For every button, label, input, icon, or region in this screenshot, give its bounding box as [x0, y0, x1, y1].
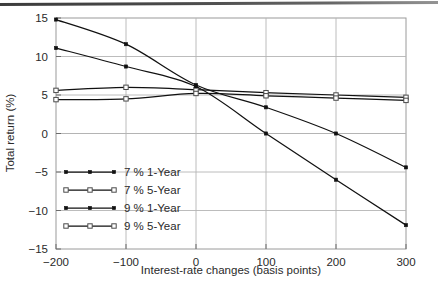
legend-marker	[64, 206, 67, 209]
series-marker	[334, 132, 337, 135]
legend-marker	[88, 170, 91, 173]
y-tick-label: 0	[42, 128, 48, 140]
series-marker	[404, 98, 408, 102]
series-marker	[54, 46, 57, 49]
series-marker	[194, 85, 197, 88]
legend-marker	[88, 224, 92, 228]
series-marker	[334, 178, 337, 181]
x-tick-label: 200	[326, 256, 345, 268]
y-tick-label: −10	[28, 205, 48, 217]
series-marker	[404, 224, 407, 227]
legend-label: 9 % 1-Year	[124, 202, 181, 214]
y-axis-ticks	[56, 18, 61, 249]
series-marker	[334, 96, 338, 100]
y-axis-tick-labels: 151050−5−10−15	[28, 12, 48, 255]
series-marker	[124, 97, 128, 101]
series-marker	[264, 94, 268, 98]
series-1	[54, 18, 407, 169]
legend-marker	[64, 188, 68, 192]
x-axis-title: Interest-rate changes (basis points)	[141, 264, 321, 276]
series-marker	[54, 97, 58, 101]
series-line	[56, 87, 406, 97]
series-3	[54, 46, 407, 226]
legend-marker	[64, 224, 68, 228]
series-marker	[124, 43, 127, 46]
series-marker	[54, 18, 57, 21]
legend-label: 7 % 5-Year	[124, 184, 181, 196]
chart-legend: 7 % 1-Year7 % 5-Year9 % 1-Year9 % 5-Year	[64, 166, 181, 232]
legend-marker	[112, 170, 115, 173]
y-tick-label: 5	[42, 89, 48, 101]
data-series-layer	[54, 18, 408, 227]
y-axis-title: Total return (%)	[4, 94, 16, 173]
legend-item: 9 % 1-Year	[64, 202, 180, 214]
legend-label: 9 % 5-Year	[124, 220, 181, 232]
x-axis-ticks	[56, 244, 406, 249]
series-marker	[264, 106, 267, 109]
y-tick-label: 15	[35, 12, 48, 24]
series-marker	[264, 132, 267, 135]
legend-marker	[88, 188, 92, 192]
series-line	[56, 48, 406, 225]
series-marker	[124, 85, 128, 89]
chart-figure: 151050−5−10−15 −200−1000100200300 Intere…	[0, 0, 438, 281]
series-marker	[124, 65, 127, 68]
gridlines	[56, 18, 406, 249]
y-tick-label: 10	[35, 51, 48, 63]
x-tick-label: 300	[396, 256, 415, 268]
y-tick-label: −5	[35, 166, 48, 178]
legend-marker	[112, 188, 116, 192]
x-tick-label: −200	[43, 256, 69, 268]
x-tick-label: −100	[113, 256, 139, 268]
legend-marker	[112, 206, 115, 209]
series-line	[56, 20, 406, 168]
y-tick-label: −15	[28, 243, 48, 255]
series-marker	[194, 91, 198, 95]
legend-marker	[64, 170, 67, 173]
legend-marker	[112, 224, 116, 228]
legend-item: 7 % 5-Year	[64, 184, 181, 196]
legend-marker	[88, 206, 91, 209]
legend-item: 9 % 5-Year	[64, 220, 181, 232]
series-marker	[54, 88, 58, 92]
line-chart: 151050−5−10−15 −200−1000100200300 Intere…	[0, 0, 438, 281]
series-marker	[404, 166, 407, 169]
legend-label: 7 % 1-Year	[124, 166, 181, 178]
